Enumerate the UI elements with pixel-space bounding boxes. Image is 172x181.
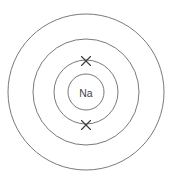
- atom-shell-diagram: Na: [0, 0, 172, 181]
- atom-diagram-canvas: Na: [0, 0, 172, 181]
- electron-bottom-icon: [82, 121, 91, 130]
- nucleus-element-label: Na: [79, 87, 93, 99]
- electron-top-icon: [82, 57, 91, 66]
